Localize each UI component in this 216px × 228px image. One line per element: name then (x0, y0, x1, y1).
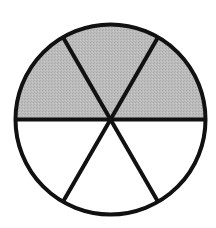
diagram-canvas (0, 0, 216, 228)
fraction-circle-diagram (0, 0, 216, 228)
